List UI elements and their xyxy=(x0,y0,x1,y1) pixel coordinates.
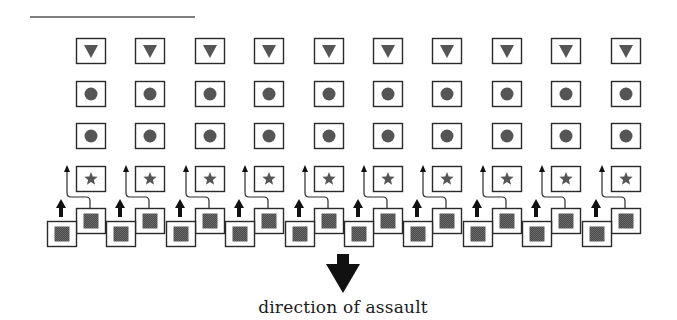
star-row-unit xyxy=(612,167,641,192)
square-icon xyxy=(233,227,248,242)
advance-arrow-icon xyxy=(234,199,244,208)
star-row-unit xyxy=(255,167,284,192)
star-row-unit xyxy=(315,167,344,192)
circle-icon xyxy=(204,130,217,143)
triangle-row-unit xyxy=(77,39,106,64)
circle-row-2-unit xyxy=(255,124,284,149)
assault-formation-diagram xyxy=(0,0,677,320)
triangle-row-unit xyxy=(315,39,344,64)
arrowhead-icon xyxy=(420,165,426,172)
circle-row-2-unit xyxy=(552,124,581,149)
circle-icon xyxy=(204,88,217,101)
triangle-row-unit xyxy=(196,39,225,64)
circle-row-2-unit xyxy=(196,124,225,149)
direction-of-assault-arrow-icon xyxy=(326,254,360,293)
circle-row-1-unit xyxy=(493,82,522,107)
advance-arrow-icon xyxy=(531,199,541,208)
circle-row-2-unit xyxy=(77,124,106,149)
arrowhead-icon xyxy=(123,165,129,172)
star-row-unit xyxy=(493,167,522,192)
circle-row-1-unit xyxy=(196,82,225,107)
advance-arrow-icon xyxy=(412,199,422,208)
star-row-unit xyxy=(136,167,165,192)
circle-row-1-unit xyxy=(315,82,344,107)
arrowhead-icon xyxy=(480,165,486,172)
square-icon xyxy=(500,214,515,229)
arrowhead-icon xyxy=(183,165,189,172)
triangle-row-unit xyxy=(612,39,641,64)
circle-icon xyxy=(501,130,514,143)
advance-arrow-icon xyxy=(353,199,363,208)
advance-arrow-icon xyxy=(56,199,66,208)
circle-icon xyxy=(620,88,633,101)
star-row-unit xyxy=(552,167,581,192)
circle-icon xyxy=(144,88,157,101)
arrowhead-icon xyxy=(539,165,545,172)
square-icon xyxy=(203,214,218,229)
arrowhead-icon xyxy=(361,165,367,172)
square-icon xyxy=(471,227,486,242)
star-row-unit xyxy=(196,167,225,192)
circle-row-1-unit xyxy=(612,82,641,107)
arrowhead-icon xyxy=(242,165,248,172)
square-icon xyxy=(440,214,455,229)
circle-icon xyxy=(441,130,454,143)
triangle-row-unit xyxy=(552,39,581,64)
square-icon xyxy=(381,214,396,229)
star-row-unit xyxy=(374,167,403,192)
advance-arrow-icon xyxy=(115,199,125,208)
circle-row-1-unit xyxy=(255,82,284,107)
circle-icon xyxy=(560,88,573,101)
circle-icon xyxy=(382,130,395,143)
square-icon xyxy=(262,214,277,229)
arrowhead-icon xyxy=(64,165,70,172)
circle-row-2-unit xyxy=(612,124,641,149)
circle-icon xyxy=(501,88,514,101)
square-icon xyxy=(293,227,308,242)
circle-icon xyxy=(620,130,633,143)
circle-row-1-unit xyxy=(374,82,403,107)
arrowhead-icon xyxy=(599,165,605,172)
circle-row-2-unit xyxy=(136,124,165,149)
square-icon xyxy=(411,227,426,242)
square-icon xyxy=(530,227,545,242)
triangle-row-unit xyxy=(433,39,462,64)
circle-row-1-unit xyxy=(77,82,106,107)
advance-arrow-icon xyxy=(175,199,185,208)
square-icon xyxy=(322,214,337,229)
circle-icon xyxy=(441,88,454,101)
circle-row-2-unit xyxy=(374,124,403,149)
square-icon xyxy=(619,214,634,229)
circle-icon xyxy=(144,130,157,143)
circle-icon xyxy=(263,88,276,101)
triangle-row-unit xyxy=(374,39,403,64)
star-row-unit xyxy=(433,167,462,192)
square-icon xyxy=(559,214,574,229)
circle-row-1-unit xyxy=(136,82,165,107)
star-row-unit xyxy=(77,167,106,192)
circle-row-2-unit xyxy=(493,124,522,149)
circle-row-2-unit xyxy=(433,124,462,149)
circle-icon xyxy=(323,88,336,101)
unit-grid xyxy=(77,39,641,192)
circle-icon xyxy=(323,130,336,143)
circle-icon xyxy=(263,130,276,143)
advance-arrow-icon xyxy=(591,199,601,208)
circle-icon xyxy=(382,88,395,101)
arrowhead-icon xyxy=(302,165,308,172)
triangle-row-unit xyxy=(255,39,284,64)
square-icon xyxy=(55,227,70,242)
circle-icon xyxy=(85,88,98,101)
square-icon xyxy=(590,227,605,242)
square-icon xyxy=(143,214,158,229)
circle-icon xyxy=(85,130,98,143)
circle-row-1-unit xyxy=(433,82,462,107)
advance-arrow-icon xyxy=(294,199,304,208)
advance-arrow-icon xyxy=(472,199,482,208)
square-icon xyxy=(114,227,129,242)
square-icon xyxy=(174,227,189,242)
circle-row-2-unit xyxy=(315,124,344,149)
direction-caption: direction of assault xyxy=(243,297,443,317)
circle-row-1-unit xyxy=(552,82,581,107)
square-icon xyxy=(352,227,367,242)
